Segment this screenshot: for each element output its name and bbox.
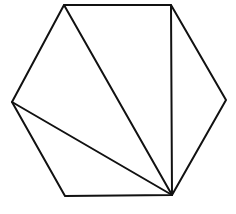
diagonal-D-B bbox=[171, 5, 172, 195]
diagonal-D-A bbox=[64, 5, 172, 195]
diagonals-group bbox=[12, 5, 172, 195]
diagonal-D-F bbox=[12, 102, 172, 195]
hexagon-triangulation-diagram bbox=[0, 0, 236, 214]
